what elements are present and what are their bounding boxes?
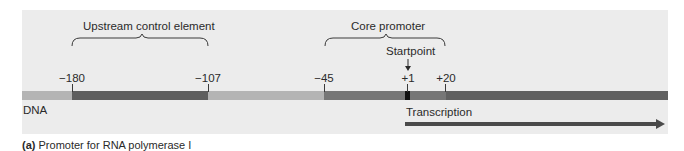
dna-segment-transcribed bbox=[446, 91, 668, 100]
dna-segment-spacer bbox=[208, 91, 324, 100]
startpoint-block bbox=[405, 91, 410, 100]
caption-text: Promoter for RNA polymerase I bbox=[35, 139, 191, 151]
upstream-brace bbox=[72, 34, 208, 46]
position-label--107: −107 bbox=[195, 73, 221, 85]
startpoint-arrow-icon bbox=[405, 66, 411, 71]
tick-+20 bbox=[445, 84, 446, 92]
transcription-label: Transcription bbox=[406, 107, 472, 119]
position-label-+1: +1 bbox=[401, 73, 414, 85]
tick-+1 bbox=[407, 84, 408, 92]
position-label-+20: +20 bbox=[436, 73, 456, 85]
transcription-arrowhead-icon bbox=[656, 119, 665, 129]
figure-caption: (a) Promoter for RNA polymerase I bbox=[22, 140, 191, 151]
caption-prefix: (a) bbox=[22, 139, 35, 151]
dna-segment-upstream-control-element bbox=[72, 91, 208, 100]
diagram-graphics bbox=[0, 0, 684, 151]
startpoint-label: Startpoint bbox=[386, 46, 435, 58]
position-label--180: −180 bbox=[59, 73, 85, 85]
dna-segment-left-flank bbox=[22, 91, 72, 100]
tick--107 bbox=[208, 84, 209, 92]
dna-segment-core-promoter bbox=[324, 91, 446, 100]
tick--45 bbox=[324, 84, 325, 92]
dna-label: DNA bbox=[23, 105, 47, 117]
tick--180 bbox=[72, 84, 73, 92]
position-label--45: −45 bbox=[314, 73, 334, 85]
